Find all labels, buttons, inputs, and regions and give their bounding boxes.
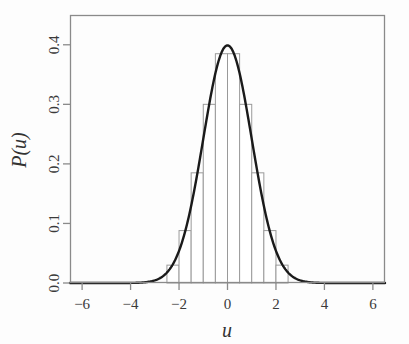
x-tick-label: 6 [369,296,377,312]
y-tick-label: 0.3 [46,95,62,114]
y-tick-label: 0.0 [46,274,62,293]
y-tick-label: 0.4 [46,35,62,54]
x-tick-label: −2 [171,296,187,312]
distribution-plot: −6−4−20246 0.00.10.20.30.4 u P(u) [0,0,409,344]
histogram-bar [276,265,288,283]
histogram-bar [191,173,203,283]
figure-container: −6−4−20246 0.00.10.20.30.4 u P(u) [0,0,409,344]
x-tick-label: −6 [74,296,90,312]
histogram-bar [228,54,240,283]
histogram-bar [179,231,191,283]
x-tick-label: 4 [321,296,329,312]
histogram-bar [167,265,179,283]
y-axis-title: P(u) [8,132,31,169]
y-tick-label: 0.1 [46,214,62,233]
x-tick-label: 2 [272,296,280,312]
y-tick-label: 0.2 [46,155,62,174]
histogram-bar [252,173,264,283]
histogram-bar [264,231,276,283]
x-axis-title: u [222,319,232,341]
x-tick-label: 0 [224,296,232,312]
x-tick-label: −4 [123,296,139,312]
histogram-bar [215,54,227,283]
